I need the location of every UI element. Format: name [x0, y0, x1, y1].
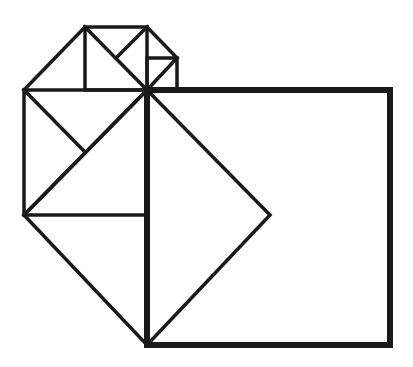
middle-square-half-diagonal: [24, 90, 85, 152]
small-square-diagonal: [147, 58, 177, 90]
geometric-diagram: [0, 0, 413, 367]
top-square-half-diagonal: [116, 27, 147, 58]
top-left-triangle-edge: [24, 27, 85, 90]
diagram-canvas: [0, 0, 413, 367]
small-triangle-edge: [147, 27, 177, 58]
